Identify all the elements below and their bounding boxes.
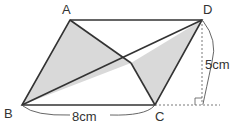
right-angle-mark (195, 98, 202, 105)
parallelogram-diagram: A D B C 8cm 5cm (0, 0, 240, 128)
label-base-length: 8cm (72, 109, 97, 124)
label-b: B (4, 106, 13, 121)
label-c: C (155, 109, 164, 124)
label-height-length: 5cm (205, 57, 230, 72)
shaded-triangle-dpc (131, 20, 202, 105)
label-a: A (62, 2, 71, 17)
label-d: D (203, 2, 212, 17)
shaded-triangle-abp (22, 20, 131, 105)
